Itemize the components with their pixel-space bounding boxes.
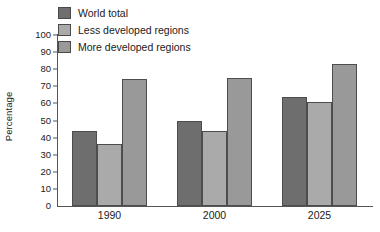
x-axis-tick-label: 1990	[98, 209, 121, 221]
legend-label-less-developed: Less developed regions	[78, 24, 189, 36]
legend-item-less-developed: Less developed regions	[58, 23, 191, 37]
plot-area	[57, 35, 372, 206]
bar	[282, 97, 307, 206]
y-axis-tick-label: 0	[27, 201, 51, 211]
legend-swatch-less-developed	[58, 24, 71, 36]
y-axis-tick-label: 50	[27, 116, 51, 126]
x-axis-tick-label: 2025	[308, 209, 331, 221]
y-axis-tick-label: 100	[27, 30, 51, 40]
bar	[202, 131, 227, 206]
x-axis-line	[57, 206, 373, 207]
bar	[122, 79, 147, 206]
bar	[72, 131, 97, 206]
legend-label-world-total: World total	[78, 7, 128, 19]
y-axis-tick-label: 80	[27, 64, 51, 74]
legend-item-world-total: World total	[58, 6, 191, 20]
x-axis-tick-label: 2000	[203, 209, 226, 221]
legend-swatch-more-developed	[58, 41, 71, 53]
y-axis-title-text: Percentage	[4, 91, 15, 141]
y-axis-tick-label: 20	[27, 167, 51, 177]
x-axis-tick-labels: 199020002025	[57, 209, 372, 227]
legend-label-more-developed: More developed regions	[78, 41, 191, 53]
y-axis-title: Percentage	[2, 0, 16, 232]
y-axis-tick-label: 70	[27, 81, 51, 91]
y-axis-tick-label: 90	[27, 47, 51, 57]
y-axis-tick-label: 60	[27, 98, 51, 108]
chart-legend: World total Less developed regions More …	[58, 6, 191, 54]
y-axis-tick-label: 10	[27, 184, 51, 194]
y-axis-tick-labels: 0102030405060708090100	[27, 35, 51, 206]
bar	[227, 78, 252, 206]
bar	[97, 144, 122, 206]
bar	[307, 102, 332, 206]
bar	[177, 121, 202, 207]
bar-chart: World total Less developed regions More …	[0, 0, 380, 232]
bar	[332, 64, 357, 206]
legend-item-more-developed: More developed regions	[58, 40, 191, 54]
y-axis-tick-label: 40	[27, 133, 51, 143]
legend-swatch-world-total	[58, 7, 71, 19]
y-axis-tick-label: 30	[27, 150, 51, 160]
